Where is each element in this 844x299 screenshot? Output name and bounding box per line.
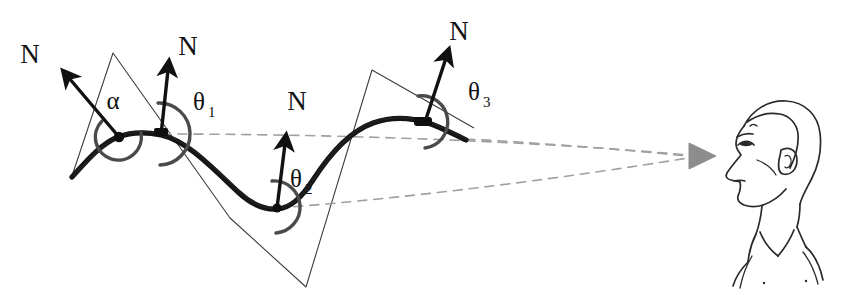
normal-vector-3 xyxy=(277,144,285,208)
facet-polyline xyxy=(72,53,474,287)
normal-vector-4 xyxy=(425,58,446,122)
labels-group: N N N N α θ 1 θ 2 θ 3 xyxy=(20,16,490,197)
surface-normals-diagram: N N N N α θ 1 θ 2 θ 3 xyxy=(0,0,844,299)
sight-line-top xyxy=(162,134,688,155)
shoulder-left xyxy=(733,262,748,286)
neck-back xyxy=(797,204,800,227)
angle-label-theta3-subscript: 3 xyxy=(483,94,491,110)
angle-label-theta1: θ 1 xyxy=(193,88,216,120)
collar-fold-right xyxy=(778,230,794,256)
sight-line-bottom xyxy=(278,158,688,208)
facet-polyline-group xyxy=(72,53,474,287)
surface-sample-point-3 xyxy=(272,203,281,212)
normal-label-3: N xyxy=(287,86,307,116)
jaw-and-neck xyxy=(763,189,786,205)
surface-sample-point-4 xyxy=(414,117,432,126)
face-profile xyxy=(726,126,763,207)
sight-line-middle xyxy=(466,139,688,156)
neck-front xyxy=(756,206,762,234)
angle-label-theta2-symbol: θ xyxy=(290,165,302,192)
shirt-seam-right xyxy=(803,252,818,284)
ear-inner xyxy=(785,155,791,167)
shoulder-right xyxy=(806,247,823,280)
angle-label-theta1-symbol: θ xyxy=(193,88,205,115)
ear xyxy=(779,148,797,174)
temple-mark xyxy=(750,125,757,127)
surface-sample-point-1 xyxy=(114,132,124,142)
shirt-dot-left xyxy=(763,282,765,284)
observer-head-illustration xyxy=(726,101,823,288)
normal-label-2: N xyxy=(178,31,198,61)
mouth xyxy=(734,180,745,181)
shirt-seam-left xyxy=(740,256,752,288)
shirt-dot-right xyxy=(805,280,807,282)
collar-fold-left xyxy=(760,232,778,256)
angle-label-theta3-symbol: θ xyxy=(468,78,480,105)
surface-sample-point-2 xyxy=(154,128,168,136)
hairline xyxy=(747,113,798,168)
viewing-direction-arrow xyxy=(689,143,716,169)
angle-label-alpha: α xyxy=(106,87,119,114)
angle-label-theta3: θ 3 xyxy=(468,78,491,110)
normal-label-4: N xyxy=(449,16,469,46)
collar-left xyxy=(748,234,756,262)
normal-label-1: N xyxy=(20,39,40,69)
collar-right xyxy=(797,227,806,247)
angle-label-theta1-subscript: 1 xyxy=(208,104,216,120)
cheek-line xyxy=(757,160,776,175)
diagram-canvas: N N N N α θ 1 θ 2 θ 3 xyxy=(0,0,844,299)
angle-label-theta2-subscript: 2 xyxy=(305,181,313,197)
